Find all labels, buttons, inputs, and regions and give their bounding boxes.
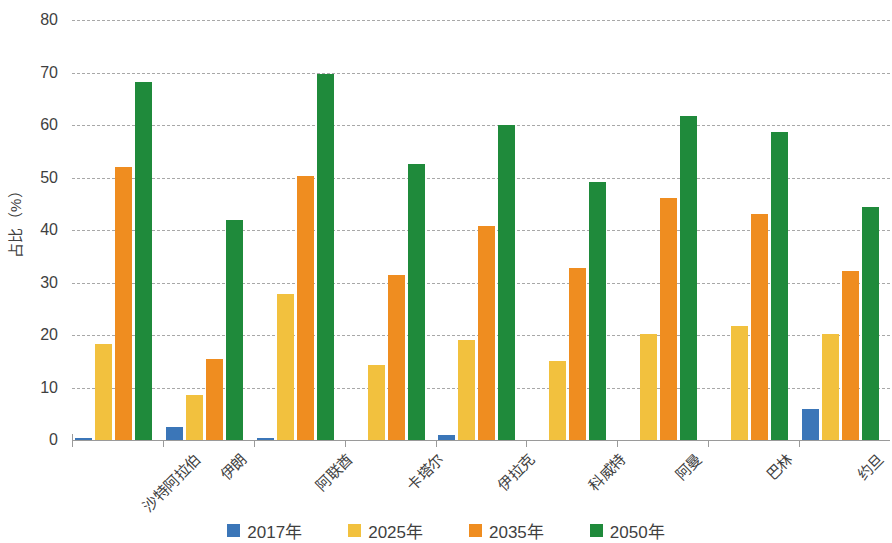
bar: [731, 326, 748, 440]
x-axis-category-label: 伊拉克: [492, 448, 539, 495]
legend-label: 2025年: [368, 518, 423, 543]
bar: [226, 220, 243, 441]
bar-group: [617, 20, 708, 440]
y-tick-label: 10: [18, 379, 58, 397]
chart-legend: 2017年2025年2035年2050年: [0, 518, 892, 543]
bar: [751, 214, 768, 440]
bar: [569, 268, 586, 440]
legend-item[interactable]: 2050年: [590, 518, 665, 543]
legend-item[interactable]: 2017年: [227, 518, 302, 543]
bar: [95, 344, 112, 440]
x-axis-category-label: 卡塔尔: [401, 448, 448, 495]
y-tick-label: 0: [18, 431, 58, 449]
legend-swatch-icon: [469, 524, 482, 537]
y-tick-label: 30: [18, 274, 58, 292]
bar-group: [799, 20, 890, 440]
x-axis-category-label: 阿曼: [670, 448, 706, 484]
bar: [589, 182, 606, 440]
bar-group: [436, 20, 527, 440]
bar: [115, 167, 132, 440]
legend-label: 2017年: [247, 518, 302, 543]
bar: [166, 427, 183, 440]
bar-group: [526, 20, 617, 440]
bar: [458, 340, 475, 440]
x-axis-category-label: 巴林: [760, 448, 796, 484]
bar: [408, 164, 425, 440]
y-axis-label-text: 占比（%）: [5, 182, 26, 258]
legend-label: 2050年: [610, 518, 665, 543]
bar: [277, 294, 294, 440]
bar: [297, 176, 314, 440]
bar: [822, 334, 839, 440]
bar: [771, 132, 788, 440]
legend-item[interactable]: 2025年: [348, 518, 423, 543]
y-tick-label: 60: [18, 116, 58, 134]
legend-item[interactable]: 2035年: [469, 518, 544, 543]
x-axis-category-label: 沙特阿拉伯: [137, 448, 205, 516]
bar: [680, 116, 697, 440]
bar: [186, 395, 203, 440]
bar: [206, 359, 223, 440]
bar: [135, 82, 152, 440]
y-tick-label: 70: [18, 64, 58, 82]
bar-chart: 占比（%） 01020304050607080 沙特阿拉伯伊朗阿联酋卡塔尔伊拉克…: [0, 0, 892, 543]
plot-area: 01020304050607080: [72, 20, 890, 440]
bar: [317, 74, 334, 440]
x-axis-category-label: 约旦: [851, 448, 887, 484]
bar: [660, 198, 677, 440]
x-axis-category-label: 阿联酋: [310, 448, 357, 495]
legend-swatch-icon: [590, 524, 603, 537]
bar-group: [708, 20, 799, 440]
bar-group: [345, 20, 436, 440]
bar-group: [254, 20, 345, 440]
x-axis-labels: 沙特阿拉伯伊朗阿联酋卡塔尔伊拉克科威特阿曼巴林约旦: [72, 440, 890, 510]
legend-label: 2035年: [489, 518, 544, 543]
y-tick-label: 20: [18, 326, 58, 344]
bar: [478, 226, 495, 440]
bar: [388, 275, 405, 440]
y-tick-label: 40: [18, 221, 58, 239]
x-axis-category-label: 科威特: [583, 448, 630, 495]
bar: [498, 125, 515, 440]
y-tick-label: 80: [18, 11, 58, 29]
y-tick-label: 50: [18, 169, 58, 187]
bar: [842, 271, 859, 440]
bar-group: [163, 20, 254, 440]
bar: [640, 334, 657, 440]
bar: [549, 361, 566, 440]
x-axis-category-label: 伊朗: [215, 448, 251, 484]
bar-group: [72, 20, 163, 440]
bar: [862, 207, 879, 440]
legend-swatch-icon: [227, 524, 240, 537]
legend-swatch-icon: [348, 524, 361, 537]
bar: [802, 409, 819, 441]
bar: [368, 365, 385, 440]
